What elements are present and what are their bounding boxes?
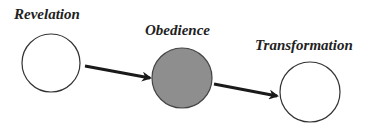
label-revelation: Revelation	[13, 6, 80, 22]
node-revelation	[22, 34, 80, 92]
label-transformation: Transformation	[255, 37, 353, 53]
label-obedience: Obedience	[145, 22, 210, 38]
node-obedience	[152, 48, 212, 108]
process-diagram: Revelation Obedience Transformation	[0, 0, 376, 133]
node-transformation	[280, 62, 340, 122]
arrow-revelation-to-obedience	[85, 66, 150, 78]
arrow-obedience-to-transformation	[214, 84, 277, 96]
